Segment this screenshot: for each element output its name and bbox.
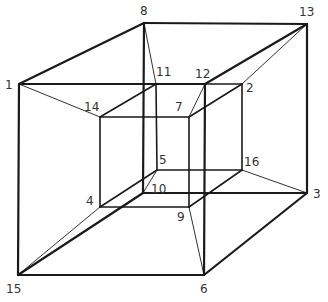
edge-15-4 bbox=[18, 207, 100, 275]
vertex-label-9: 9 bbox=[177, 210, 185, 224]
vertex-label-5: 5 bbox=[159, 153, 167, 167]
edges-layer bbox=[18, 23, 307, 275]
edge-10-8 bbox=[143, 23, 144, 193]
vertex-label-13: 13 bbox=[299, 5, 314, 19]
hypercube-svg: 12345678910111213141516 bbox=[0, 0, 328, 302]
edge-3-16 bbox=[242, 170, 307, 193]
vertex-label-4: 4 bbox=[86, 194, 94, 208]
edge-12-13 bbox=[205, 24, 307, 84]
hypercube-diagram: 12345678910111213141516 bbox=[0, 0, 328, 302]
edge-13-2 bbox=[242, 24, 307, 84]
edge-8-11 bbox=[144, 23, 156, 84]
vertex-label-14: 14 bbox=[84, 100, 99, 114]
vertex-label-1: 1 bbox=[5, 78, 13, 92]
edge-9-16 bbox=[189, 170, 242, 207]
vertex-label-10: 10 bbox=[151, 182, 166, 196]
edge-12-6 bbox=[204, 84, 205, 275]
edge-14-11 bbox=[100, 84, 156, 117]
edge-8-13 bbox=[144, 23, 307, 24]
vertex-label-12: 12 bbox=[195, 67, 210, 81]
edge-6-3 bbox=[204, 193, 307, 275]
vertex-label-6: 6 bbox=[200, 282, 208, 296]
vertex-label-2: 2 bbox=[246, 81, 254, 95]
vertex-label-16: 16 bbox=[244, 155, 259, 169]
edge-15-1 bbox=[18, 84, 19, 275]
vertex-label-11: 11 bbox=[156, 65, 171, 79]
edge-1-8 bbox=[19, 23, 144, 84]
edge-5-11 bbox=[156, 84, 157, 170]
vertex-label-15: 15 bbox=[6, 282, 21, 296]
edge-6-9 bbox=[189, 207, 204, 275]
edge-15-10 bbox=[18, 193, 143, 275]
vertex-label-7: 7 bbox=[175, 100, 183, 114]
vertex-label-3: 3 bbox=[313, 187, 321, 201]
vertex-label-8: 8 bbox=[140, 4, 148, 18]
